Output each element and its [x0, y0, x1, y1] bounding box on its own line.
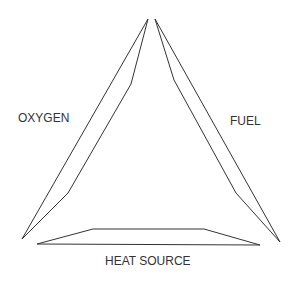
oxygen-side-shape: [22, 19, 148, 239]
heat-side-shape: [37, 229, 260, 245]
oxygen-label: OXYGEN: [18, 111, 69, 125]
fuel-label: FUEL: [230, 114, 261, 128]
heat-source-label: HEAT SOURCE: [105, 254, 191, 268]
fire-triangle-svg: [0, 0, 298, 281]
fuel-side-shape: [155, 19, 280, 242]
fire-triangle-diagram: OXYGEN FUEL HEAT SOURCE: [0, 0, 298, 281]
